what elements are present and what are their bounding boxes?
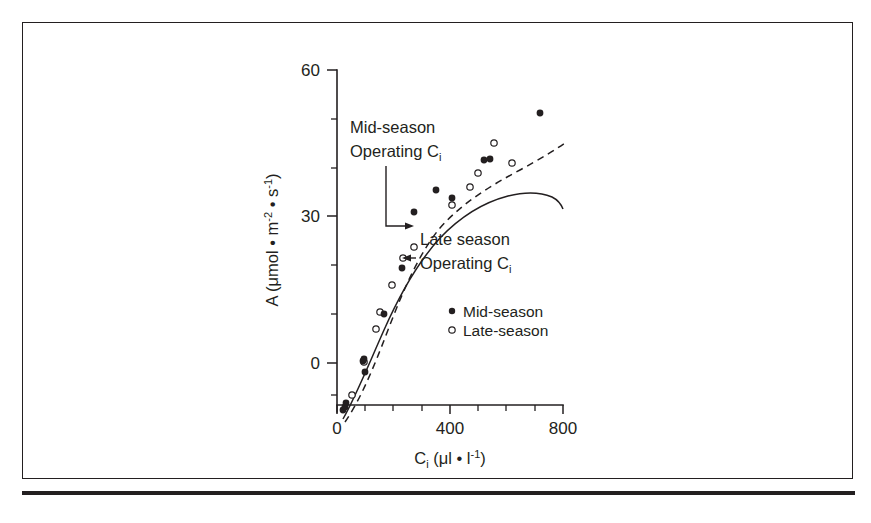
data-point-open	[491, 140, 497, 146]
legend-item-late-season: Late-season	[449, 322, 549, 339]
annotation-late-season-line2-main: Operating C	[420, 254, 509, 272]
x-title-main: C	[414, 449, 426, 467]
legend-label-mid-season: Mid-season	[463, 303, 543, 320]
annotation-mid-season-leader	[386, 166, 408, 226]
svg-text:A (μmol • m-2 • s-1): A (μmol • m-2 • s-1)	[262, 173, 281, 306]
data-point-open	[411, 244, 417, 250]
annotation-late-season-line2-sub: i	[509, 263, 511, 275]
annotation-mid-season-arrowhead	[405, 223, 414, 230]
data-point-filled	[362, 369, 369, 376]
annotation-mid-season-line2-main: Operating C	[350, 142, 439, 160]
y-axis	[327, 70, 337, 412]
y-ticklabel-30: 30	[301, 207, 320, 226]
annotation-late-season: Late season Operating Ci	[402, 230, 511, 275]
annotation-mid-season-line1: Mid-season	[350, 118, 435, 136]
legend-item-mid-season: Mid-season	[449, 303, 543, 320]
y-title-exp1: -2	[262, 212, 274, 222]
legend-label-late-season: Late-season	[463, 322, 548, 339]
data-point-filled	[411, 209, 418, 216]
data-point-filled	[449, 195, 456, 202]
data-point-open	[475, 170, 481, 176]
data-point-open	[467, 184, 473, 190]
data-point-open	[389, 282, 395, 288]
annotation-mid-season-line2: Operating Ci	[350, 142, 441, 163]
x-ticklabel-400: 400	[436, 419, 464, 438]
data-point-filled	[487, 156, 494, 163]
data-point-filled	[481, 157, 488, 164]
annotation-mid-season: Mid-season Operating Ci	[350, 118, 441, 230]
data-point-filled	[433, 187, 440, 194]
y-title-main: A (μmol • m	[263, 222, 281, 307]
data-point-filled	[537, 110, 544, 117]
data-point-open	[349, 392, 355, 398]
data-point-open	[509, 160, 515, 166]
y-title-exp2: -1	[262, 179, 274, 189]
y-ticklabel-0: 0	[311, 354, 320, 373]
y-ticklabel-60: 60	[301, 61, 320, 80]
data-point-filled	[399, 265, 406, 272]
x-title-rest: (μl • l	[429, 449, 471, 467]
x-axis-title: Ci (μl • l-1)	[414, 448, 486, 470]
legend: Mid-season Late-season	[449, 303, 549, 339]
y-title-close: )	[263, 173, 281, 179]
legend-marker-filled-circle-icon	[449, 308, 455, 314]
figure-root: 60 30 0 0 400 800 Ci (μl • l-1) A (μmol …	[0, 0, 871, 523]
y-title-mid: • s	[263, 189, 281, 212]
x-axis	[337, 405, 563, 414]
annotation-late-season-line2: Operating Ci	[420, 254, 511, 275]
y-axis-title: A (μmol • m-2 • s-1)	[262, 173, 281, 306]
x-ticklabel-0: 0	[332, 419, 341, 438]
legend-marker-open-circle-icon	[449, 327, 455, 333]
data-point-open	[449, 202, 455, 208]
annotation-mid-season-line2-sub: i	[439, 151, 441, 163]
data-point-open	[373, 326, 379, 332]
late-season-fit-curve	[345, 143, 565, 422]
x-title-close: )	[480, 449, 486, 467]
data-point-filled	[381, 311, 388, 318]
data-point-filled	[361, 356, 368, 363]
x-ticklabel-800: 800	[549, 419, 577, 438]
scatter-plot: 60 30 0 0 400 800 Ci (μl • l-1) A (μmol …	[0, 0, 871, 523]
data-point-filled	[343, 400, 350, 407]
svg-text:Ci (μl • l-1): Ci (μl • l-1)	[414, 448, 486, 470]
x-title-exp: -1	[470, 448, 480, 460]
annotation-late-season-line1: Late season	[420, 230, 510, 248]
